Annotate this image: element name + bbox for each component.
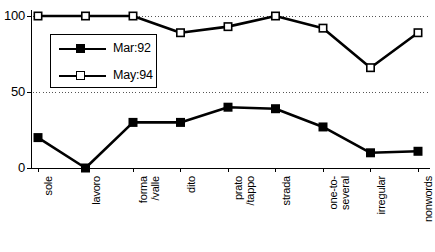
x-axis-labels: solelavoroforma /valleditoprato /tappost…: [0, 176, 432, 252]
x-axis-label: prato /tappo: [233, 176, 256, 250]
y-tick-label-0: 0: [0, 160, 25, 175]
legend-label-mar92: Mar:92: [113, 41, 151, 55]
open-square-icon: [76, 71, 85, 80]
legend: Mar:92 May:94: [50, 34, 157, 88]
legend-entry-may94: May:94: [51, 62, 158, 89]
x-axis-label: dito: [186, 176, 198, 250]
x-axis-label: lavoro: [91, 176, 103, 250]
y-tick-label-100: 100: [0, 8, 25, 23]
x-axis-ticks: [38, 168, 418, 172]
legend-label-may94: May:94: [113, 68, 153, 82]
x-axis-label: nonwords: [423, 176, 435, 250]
x-axis-label: irregular: [376, 176, 388, 250]
x-axis-label: forma /valle: [138, 176, 161, 250]
legend-entry-mar92: Mar:92: [51, 35, 158, 62]
x-axis-label: sole: [43, 176, 55, 250]
x-axis-label: strada: [281, 176, 293, 250]
x-axis-label: one-to- several: [328, 176, 351, 250]
y-tick-label-50: 50: [0, 84, 25, 99]
filled-square-icon: [76, 44, 85, 53]
